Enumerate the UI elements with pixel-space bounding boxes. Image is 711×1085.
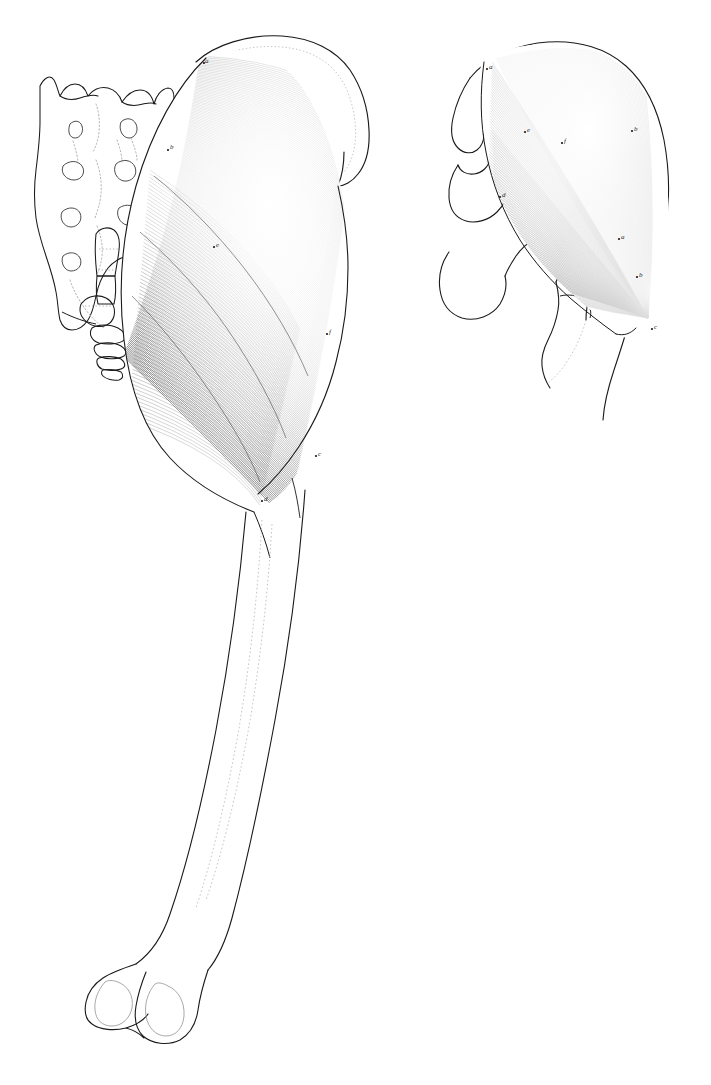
letter-label-layer: abcdefabcdabef [0,0,711,1085]
letter-label-figure-left-5: f [329,329,331,336]
letter-label-figure-right-2: c [654,324,657,331]
letter-label-figure-right-0: a [489,64,493,71]
letter-label-figure-right-1: b [634,126,638,133]
letter-label-figure-right-6: e [527,127,530,134]
letter-label-figure-right-7: f [564,138,566,145]
letter-label-figure-right-5: b [639,272,643,279]
anatomical-plate: abcdefabcdabef [0,0,711,1085]
letter-label-figure-left-3: d [264,496,268,503]
letter-label-figure-right-4: a [621,234,625,241]
letter-label-figure-left-2: c [318,451,321,458]
letter-label-figure-left-0: a [205,58,209,65]
letter-label-figure-left-4: e [216,242,219,249]
letter-label-figure-right-3: d [502,192,506,199]
letter-label-figure-left-1: b [170,144,174,151]
